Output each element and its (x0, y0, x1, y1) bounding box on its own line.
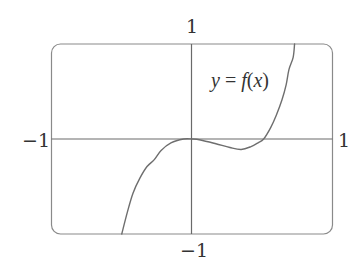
curve-label-equals: = (220, 69, 241, 91)
function-plot (0, 0, 361, 269)
y-max-label: 1 (186, 17, 198, 36)
curve-label-x: x (253, 69, 262, 91)
x-min-label: −1 (22, 131, 50, 150)
y-min-label: −1 (180, 241, 208, 260)
curve-label-close-paren: ) (262, 69, 269, 91)
curve-label-y: y (211, 69, 220, 91)
x-max-label: 1 (338, 131, 350, 150)
curve-equation-label: y = f(x) (211, 70, 269, 90)
